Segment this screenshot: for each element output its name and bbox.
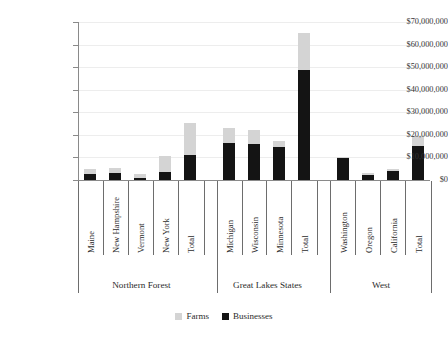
category-cell: Total	[291, 181, 318, 255]
bar-washington	[337, 157, 349, 180]
legend-item-businesses: Businesses	[222, 312, 273, 321]
category-cell: Oregon	[355, 181, 381, 255]
bar-wisconsin	[248, 130, 260, 180]
y-axis-tick-label: $30,000,000	[378, 108, 448, 116]
group-label: West	[331, 280, 431, 290]
category-cell: New York	[153, 181, 179, 255]
category-cell: Michigan	[217, 181, 243, 255]
category-label: Minnesota	[276, 217, 284, 253]
bar-segment-businesses	[109, 173, 121, 180]
bar-segment-farms	[184, 123, 196, 155]
legend-swatch-icon	[175, 313, 182, 320]
category-cell: New Hampshire	[103, 181, 129, 255]
y-axis-tick-label: $60,000,000	[378, 41, 448, 49]
bar-total	[298, 33, 310, 180]
category-label: Total	[415, 235, 423, 253]
bar-segment-farms	[223, 128, 235, 143]
category-label: New York	[162, 218, 170, 253]
bar-segment-businesses	[337, 158, 349, 180]
category-label: New Hampshire	[112, 197, 120, 253]
bar-segment-businesses	[159, 172, 171, 180]
category-label-band: MaineNew HampshireVermontNew YorkTotalMi…	[78, 181, 430, 255]
bar-segment-farms	[248, 130, 260, 143]
bar-maine	[84, 169, 96, 180]
y-axis-tick-label: $40,000,000	[378, 86, 448, 94]
legend-item-farms: Farms	[175, 312, 209, 321]
bar-segment-businesses	[298, 70, 310, 180]
bar-segment-businesses	[412, 146, 424, 180]
bar-new-hampshire	[109, 168, 121, 180]
group-label-band: Northern ForestGreat Lakes StatesWest	[78, 255, 430, 293]
category-label: Oregon	[365, 227, 373, 253]
bar-minnesota	[273, 141, 285, 180]
category-cell: Vermont	[128, 181, 154, 255]
y-axis-tick-label: $70,000,000	[378, 18, 448, 26]
y-axis-line	[78, 22, 79, 181]
y-axis-tick-label: $10,000,000	[378, 153, 448, 161]
y-axis-tick-label: $20,000,000	[378, 131, 448, 139]
group-label: Northern Forest	[79, 280, 204, 290]
category-cell: Minnesota	[266, 181, 292, 255]
group-cell: Great Lakes States	[217, 255, 318, 293]
category-cell: California	[380, 181, 406, 255]
chart-legend: FarmsBusinesses	[0, 312, 448, 321]
category-label: Michigan	[226, 220, 234, 253]
bar-segment-businesses	[273, 147, 285, 180]
category-label: Total	[301, 235, 309, 253]
bar-segment-farms	[159, 156, 171, 173]
category-label: Maine	[87, 231, 95, 253]
bar-oregon	[362, 173, 374, 180]
category-label: Washington	[340, 212, 348, 253]
category-cell: Maine	[78, 181, 104, 255]
group-label: Great Lakes States	[218, 280, 318, 290]
bar-segment-businesses	[248, 144, 260, 180]
category-cell: Wisconsin	[242, 181, 268, 255]
category-cell: Total	[405, 181, 432, 255]
group-cell: Northern Forest	[78, 255, 204, 293]
bar-new-york	[159, 156, 171, 180]
legend-label: Businesses	[233, 312, 273, 321]
bar-segment-businesses	[223, 143, 235, 180]
category-label: Wisconsin	[251, 217, 259, 253]
category-label: Vermont	[137, 223, 145, 253]
category-label: Total	[187, 235, 195, 253]
bar-segment-farms	[298, 33, 310, 70]
bar-segment-businesses	[184, 155, 196, 180]
category-cell: Washington	[330, 181, 356, 255]
bar-total	[184, 123, 196, 180]
category-cell: Total	[178, 181, 205, 255]
bar-michigan	[223, 128, 235, 180]
legend-label: Farms	[186, 312, 209, 321]
category-label: California	[390, 218, 398, 253]
stacked-bar-chart: $70,000,000$60,000,000$50,000,000$40,000…	[0, 0, 448, 345]
y-axis-tick-label: $50,000,000	[378, 63, 448, 71]
group-cell: West	[330, 255, 432, 293]
legend-swatch-icon	[222, 313, 229, 320]
